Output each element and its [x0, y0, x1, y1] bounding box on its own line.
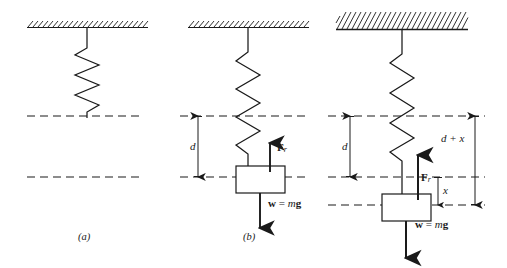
- panel-a: (a): [0, 0, 170, 268]
- weight-m-symbol: m: [435, 218, 443, 230]
- panel-b-graphics: [170, 0, 320, 268]
- panel-b-distance-d-label: d: [190, 141, 196, 152]
- weight-g-symbol: g: [296, 197, 302, 209]
- weight-g-symbol: g: [443, 218, 449, 230]
- panel-c-restoring-force-label: Fr: [421, 172, 431, 184]
- force-subscript: r: [284, 145, 287, 154]
- weight-w-symbol: w: [268, 197, 276, 209]
- panel-b: d Fr w = mg (b): [170, 0, 320, 268]
- panel-c-distance-d-label: d: [342, 141, 348, 152]
- panel-c-weight-label: w = mg: [415, 219, 448, 230]
- mass-block: [382, 194, 431, 221]
- panel-b-caption: (b): [243, 232, 255, 243]
- force-symbol: F: [421, 171, 428, 183]
- force-symbol: F: [277, 141, 284, 153]
- force-subscript: r: [428, 175, 431, 184]
- ceiling-hatch-icon: [188, 21, 309, 28]
- dimension-line-d-plus-x: [471, 116, 479, 205]
- weight-equals: =: [276, 197, 288, 209]
- panel-c-graphics: [320, 0, 507, 268]
- panel-b-weight-label: w = mg: [268, 198, 301, 209]
- panel-a-graphics: [0, 0, 170, 268]
- panel-c: d x d + x Fr w = mg: [320, 0, 507, 268]
- weight-m-symbol: m: [288, 197, 296, 209]
- panel-a-caption: (a): [78, 232, 90, 243]
- spring-coil: [75, 28, 99, 118]
- panel-b-restoring-force-label: Fr: [277, 142, 287, 154]
- spring-coil: [236, 28, 260, 166]
- panel-c-distance-d-plus-x-label: d + x: [441, 133, 464, 144]
- spring-coil: [390, 30, 414, 196]
- weight-w-symbol: w: [415, 218, 423, 230]
- weight-equals: =: [423, 218, 435, 230]
- mass-block: [236, 166, 285, 193]
- dimension-line-x: [434, 177, 442, 205]
- ceiling-hatch-icon: [27, 21, 148, 28]
- ceiling-hatch-icon: [336, 12, 468, 30]
- spring-mass-figure: (a): [0, 0, 507, 268]
- panel-c-distance-x-label: x: [443, 185, 448, 196]
